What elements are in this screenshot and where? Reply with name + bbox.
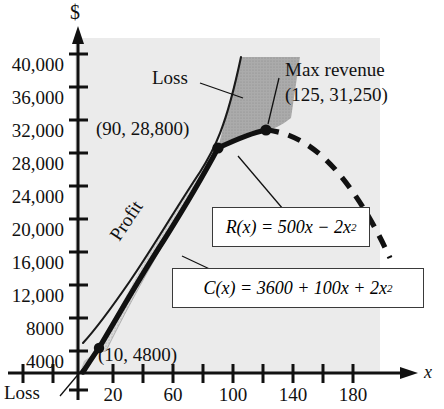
y-tick-label-4000: 4000 [0,352,64,371]
x-axis-title: x [424,363,432,381]
x-tick-label-20: 20 [93,385,133,404]
y-tick-label-36000: 36,000 [0,88,64,107]
annotation-max-revenue-point: (125, 31,250) [285,85,388,104]
annotation-loss-upper: Loss [152,68,188,87]
point-dot-90-28800 [212,142,223,153]
y-tick-label-20000: 20,000 [0,220,64,239]
revenue-equation-box: R(x) = 500x − 2x2 [212,207,370,247]
y-tick-label-16000: 16,000 [0,253,64,272]
x-tick-label-100: 100 [208,385,258,404]
annotation-point-90: (90, 28,800) [96,119,189,138]
cost-equation-text: C(x) = 3600 + 100x + 2x [204,278,387,299]
y-tick-label-24000: 24,000 [0,187,64,206]
annotation-point-10: (10, 4800) [98,345,177,364]
y-tick-label-12000: 12,000 [0,286,64,305]
y-tick-label-8000: 8000 [0,319,64,338]
y-axis-arrow [72,26,84,44]
cost-equation-box: C(x) = 3600 + 100x + 2x2 [172,268,424,308]
chart-figure: $ x 40,000 36,000 32,000 28,000 24,000 2… [0,0,444,409]
x-tick-label-60: 60 [153,385,193,404]
point-dot-125-31250 [260,124,271,135]
y-tick-label-32000: 32,000 [0,121,64,140]
x-axis-arrow [400,367,418,379]
revenue-equation-text: R(x) = 500x − 2x [226,217,351,238]
y-tick-label-28000: 28,000 [0,154,64,173]
revenue-equation-exponent: 2 [351,221,357,233]
y-tick-label-40000: 40,000 [0,55,64,74]
cost-equation-exponent: 2 [387,282,393,294]
annotation-loss-lower: Loss [4,383,40,402]
leader-revenue-eq [238,156,283,209]
y-axis-title: $ [70,2,80,22]
x-tick-label-140: 140 [268,385,318,404]
annotation-max-revenue: Max revenue [285,60,385,79]
x-tick-label-180: 180 [328,385,378,404]
